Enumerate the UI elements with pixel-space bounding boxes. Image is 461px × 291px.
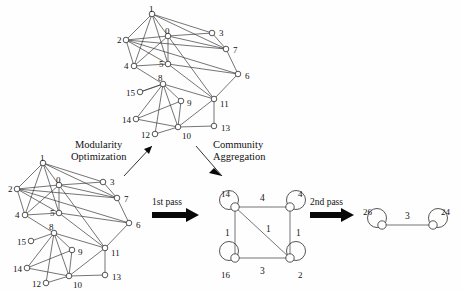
bottom-node-3 xyxy=(100,179,106,185)
bottom-node-9 xyxy=(69,247,75,253)
label-second-pass: 2nd pass xyxy=(310,197,343,207)
fp-node-weight-A: 14 xyxy=(221,189,231,199)
sp-node-weight-F: 24 xyxy=(441,207,451,217)
top-node-4 xyxy=(131,63,137,69)
top-edge-5-6 xyxy=(168,64,238,74)
top-node-label-4: 4 xyxy=(124,61,129,71)
bottom-edge-10-12 xyxy=(46,276,69,283)
bottom-edge-5-6 xyxy=(59,213,129,223)
top-edge-9-10 xyxy=(178,101,181,127)
second-pass-labels: 32624 xyxy=(363,207,451,221)
bottom-node-label-8: 8 xyxy=(49,222,54,232)
top-node-label-10: 10 xyxy=(182,131,192,141)
bottom-node-label-5: 5 xyxy=(50,208,55,218)
bottom-node-12 xyxy=(43,280,49,286)
top-node-label-1: 1 xyxy=(149,4,154,14)
fp-edge-weight-C-D: 3 xyxy=(260,266,265,276)
bottom-node-label-14: 14 xyxy=(13,264,23,274)
top-node-label-12: 12 xyxy=(141,130,150,140)
bottom-node-label-1: 1 xyxy=(40,153,45,163)
bottom-node-7 xyxy=(114,195,120,201)
top-node-label-11: 11 xyxy=(220,99,229,109)
top-edge-0-2 xyxy=(126,36,168,40)
bottom-node-label-0: 0 xyxy=(56,175,61,185)
caption-community-line1: Community xyxy=(213,139,264,150)
bottom-node-label-9: 9 xyxy=(78,247,83,257)
top-edge-6-11 xyxy=(214,74,238,99)
top-edge-0-3 xyxy=(168,33,212,36)
bottom-node-14 xyxy=(24,265,30,271)
top-node-label-13: 13 xyxy=(221,123,231,133)
top-node-label-2: 2 xyxy=(117,35,122,45)
top-node-2 xyxy=(123,37,129,43)
bottom-edge-9-10 xyxy=(69,250,72,276)
bottom-edge-10-13 xyxy=(69,275,105,276)
top-node-5 xyxy=(165,61,171,67)
bottom-node-label-3: 3 xyxy=(110,177,115,187)
fp-edge-weight-B-D: 1 xyxy=(296,228,301,238)
top-node-9 xyxy=(178,98,184,104)
top-node-label-0: 0 xyxy=(165,26,170,36)
top-edge-10-13 xyxy=(178,126,214,127)
fp-edge-weight-A-C: 1 xyxy=(225,228,230,238)
bottom-edge-1-7 xyxy=(43,163,117,198)
top-node-10 xyxy=(175,124,181,130)
label-first-pass: 1st pass xyxy=(152,197,182,207)
top-edge-1-3 xyxy=(152,14,212,33)
bottom-node-6 xyxy=(126,220,132,226)
top-node-label-15: 15 xyxy=(126,88,136,98)
top-edge-1-2 xyxy=(126,14,152,40)
bottom-node-15 xyxy=(28,238,34,244)
fp-node-weight-D: 2 xyxy=(298,270,303,280)
caption-modularity-line1: Modularity xyxy=(75,139,123,150)
top-node-label-14: 14 xyxy=(122,115,132,125)
top-node-15 xyxy=(137,89,143,95)
bottom-node-label-10: 10 xyxy=(73,280,83,290)
fp-node-weight-C: 16 xyxy=(221,270,231,280)
fp-node-B xyxy=(286,203,294,211)
bottom-edge-6-11 xyxy=(105,223,129,248)
fp-node-D xyxy=(286,254,294,262)
bottom-node-5 xyxy=(56,210,62,216)
sp-edge-weight-E-F: 3 xyxy=(405,211,410,221)
fp-node-A xyxy=(231,203,239,211)
bottom-edge-0-2 xyxy=(17,185,59,189)
sp-node-weight-E: 26 xyxy=(363,207,373,217)
bottom-edge-1-2 xyxy=(17,163,43,189)
bottom-node-label-12: 12 xyxy=(32,279,41,289)
first-pass-arrow xyxy=(152,208,199,222)
top-node-label-9: 9 xyxy=(187,98,192,108)
top-node-11 xyxy=(211,96,217,102)
fp-edge-weight-A-D: 1 xyxy=(266,224,271,234)
bottom-node-4 xyxy=(22,212,28,218)
top-edge-1-7 xyxy=(152,14,226,49)
bottom-node-label-13: 13 xyxy=(112,272,122,282)
bottom-node-label-4: 4 xyxy=(15,210,20,220)
top-node-14 xyxy=(133,116,139,122)
top-node-7 xyxy=(223,46,229,52)
bottom-node-10 xyxy=(66,273,72,279)
top-edge-0-7 xyxy=(168,36,226,49)
top-node-12 xyxy=(152,131,158,137)
fp-node-weight-B: 4 xyxy=(298,189,303,199)
caption-modularity-line2: Optimization xyxy=(71,151,127,162)
fp-edge-weight-A-B: 4 xyxy=(260,193,265,203)
first-pass-edges xyxy=(235,207,290,258)
top-node-3 xyxy=(209,30,215,36)
bottom-node-label-2: 2 xyxy=(8,184,13,194)
top-node-label-7: 7 xyxy=(233,45,238,55)
top-node-6 xyxy=(235,71,241,77)
top-edge-10-12 xyxy=(155,127,178,134)
top-node-label-5: 5 xyxy=(159,59,164,69)
top-node-label-3: 3 xyxy=(219,28,224,38)
bottom-edge-1-3 xyxy=(43,163,103,182)
figure-canvas: 1032745681591114101312 10327456815911141… xyxy=(0,0,461,291)
sp-node-E xyxy=(378,221,386,229)
louvain-diagram: 1032745681591114101312 10327456815911141… xyxy=(0,0,461,291)
bottom-node-label-11: 11 xyxy=(111,248,120,258)
fp-edge-A-D xyxy=(235,207,290,258)
caption-community-line2: Aggregation xyxy=(213,151,266,162)
bottom-node-label-7: 7 xyxy=(124,194,129,204)
bottom-node-13 xyxy=(102,272,108,278)
second-pass-arrow xyxy=(310,208,354,222)
